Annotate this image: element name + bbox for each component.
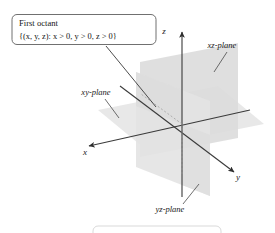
first-octant-callout: First octant {(x, y, z): x > 0, y > 0, z… [12,15,156,45]
first-octant-diagram: z x y xz-plane xy-plane yz-plane First o… [0,0,275,233]
plane-overlap-shade-2 [182,124,210,196]
x-axis-label: x [82,147,87,157]
y-axis-label: y [235,172,240,182]
xy-plane-label: xy-plane [80,87,110,97]
z-axis-label: z [161,26,166,36]
xz-plane-label: xz-plane [207,40,237,50]
yz-plane-label: yz-plane [155,204,185,214]
callout-line-1: First octant [19,18,59,28]
callout-line-2: {(x, y, z): x > 0, y > 0, z > 0} [19,32,117,41]
